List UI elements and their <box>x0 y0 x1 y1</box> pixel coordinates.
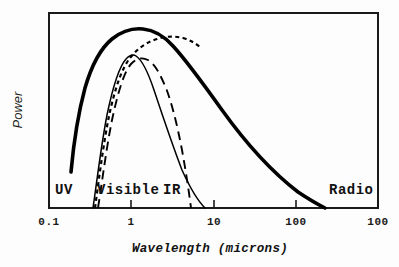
plot-frame <box>49 13 378 208</box>
x-tick-label-2: 10 <box>207 216 221 228</box>
x-tick-labels: 0.1 1 10 100 100 <box>38 216 388 228</box>
chart-figure: UV Visible IR Radio 0.1 1 10 100 100 Wav… <box>0 0 399 267</box>
band-label-ir: IR <box>163 182 181 198</box>
band-label-visible: Visible <box>97 182 159 198</box>
band-label-uv: UV <box>55 182 73 198</box>
x-tick-label-3: 100 <box>285 216 306 228</box>
x-tick-label-4: 100 <box>367 216 388 228</box>
band-label-radio: Radio <box>329 182 374 198</box>
y-axis-title: Power <box>10 91 25 129</box>
x-tick-label-0: 0.1 <box>38 216 59 228</box>
spectrum-plot-svg: UV Visible IR Radio 0.1 1 10 100 100 Wav… <box>0 0 399 267</box>
x-axis-title: Wavelength (microns) <box>132 242 288 256</box>
band-labels: UV Visible IR Radio <box>55 182 374 198</box>
x-tick-label-1: 1 <box>127 216 134 228</box>
